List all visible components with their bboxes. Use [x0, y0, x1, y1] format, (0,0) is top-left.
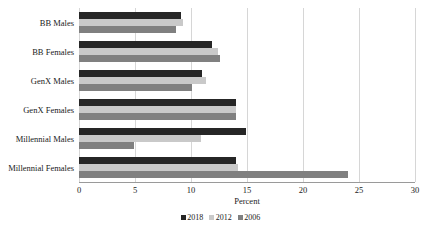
- plot-area: [79, 8, 415, 182]
- x-tick-label: 5: [120, 185, 150, 195]
- bar-2006-millennial-females[interactable]: [79, 171, 348, 178]
- category-label: Millennial Females: [0, 163, 74, 173]
- x-tick-label: 0: [64, 185, 94, 195]
- bar-group: [79, 153, 415, 182]
- category-label: Millennial Males: [0, 134, 74, 144]
- bar-2006-bb-females[interactable]: [79, 55, 220, 62]
- legend-swatch-icon: [209, 215, 214, 220]
- category-label: GenX Females: [0, 105, 74, 115]
- bar-2018-millennial-males[interactable]: [79, 128, 246, 135]
- category-label: BB Males: [0, 18, 74, 28]
- bar-2018-bb-males[interactable]: [79, 12, 181, 19]
- legend-swatch-icon: [238, 215, 243, 220]
- bar-2018-bb-females[interactable]: [79, 41, 212, 48]
- legend-label: 2018: [187, 213, 203, 222]
- bar-2012-genx-males[interactable]: [79, 77, 206, 84]
- bar-2006-genx-males[interactable]: [79, 84, 192, 91]
- bar-group: [79, 95, 415, 124]
- bar-chart: BB MalesBB FemalesGenX MalesGenX Females…: [0, 0, 441, 237]
- chart-legend: 201820122006: [0, 212, 441, 222]
- legend-label: 2006: [244, 213, 260, 222]
- legend-entry-2018[interactable]: 2018: [181, 212, 204, 222]
- x-tick-label: 20: [288, 185, 318, 195]
- bar-group: [79, 124, 415, 153]
- bar-group: [79, 37, 415, 66]
- bar-2012-bb-females[interactable]: [79, 48, 218, 55]
- bar-group: [79, 8, 415, 37]
- legend-swatch-icon: [181, 215, 186, 220]
- legend-entry-2006[interactable]: 2006: [238, 212, 261, 222]
- x-axis-title: Percent: [79, 196, 415, 206]
- bar-group: [79, 66, 415, 95]
- x-axis-line: [79, 182, 415, 183]
- legend-entry-2012[interactable]: 2012: [209, 212, 232, 222]
- x-tick-label: 15: [232, 185, 262, 195]
- bar-2018-genx-males[interactable]: [79, 70, 202, 77]
- bar-2012-bb-males[interactable]: [79, 19, 183, 26]
- bar-2018-genx-females[interactable]: [79, 99, 236, 106]
- x-tick-label: 10: [176, 185, 206, 195]
- bar-2006-bb-males[interactable]: [79, 26, 176, 33]
- gridline: [415, 8, 416, 182]
- category-label: GenX Males: [0, 76, 74, 86]
- bar-2006-genx-females[interactable]: [79, 113, 236, 120]
- bar-2018-millennial-females[interactable]: [79, 157, 236, 164]
- category-label: BB Females: [0, 47, 74, 57]
- x-tick-label: 30: [400, 185, 430, 195]
- bar-2006-millennial-males[interactable]: [79, 142, 134, 149]
- x-tick-label: 25: [344, 185, 374, 195]
- bar-2012-millennial-males[interactable]: [79, 135, 201, 142]
- bar-2012-millennial-females[interactable]: [79, 164, 238, 171]
- legend-label: 2012: [216, 213, 232, 222]
- bar-2012-genx-females[interactable]: [79, 106, 236, 113]
